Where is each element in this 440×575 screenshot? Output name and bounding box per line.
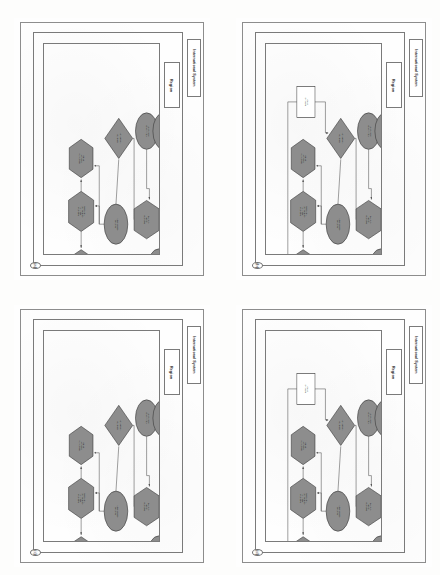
flow-node-ellipse: Great powerrestraintand localautonomy [147, 249, 159, 254]
svg-text:Regional: Regional [77, 493, 79, 503]
svg-text:External: External [117, 134, 119, 143]
panel-letter-a: (a) [30, 262, 41, 269]
flow-node-hexagon: Rise of newregionalpower [69, 250, 93, 254]
flow-node-hexagon: Balancingcoalitionforms [291, 139, 315, 177]
svg-text:change: change [370, 215, 372, 223]
flow-connector [317, 206, 326, 224]
international-system-boundary: International System Region Rise of newr… [33, 319, 183, 553]
flow-connector [338, 446, 341, 491]
region-text: Region [392, 78, 397, 92]
svg-text:intensifies: intensifies [83, 493, 85, 503]
svg-text:order: order [368, 504, 370, 510]
svg-text:commitment: commitment [338, 505, 340, 518]
flow-diagram-d: Rise of newregionalpowerRegionalsecurity… [266, 331, 381, 541]
flow-node-hexagon: Regionalsecuritycompetitionintensifies [69, 191, 94, 231]
flow-connector [376, 149, 381, 254]
svg-text:External: External [304, 384, 306, 393]
svg-text:Regional: Regional [299, 493, 301, 503]
international-system-label: International System [409, 39, 423, 97]
svg-text:Alliance: Alliance [336, 219, 338, 228]
svg-text:intervention: intervention [341, 133, 343, 145]
flow-node-ellipse: Alliancecommitment [326, 204, 350, 244]
page-frame: International System Region Rise of newr… [242, 309, 426, 563]
international-system-label: International System [187, 326, 201, 384]
svg-text:change: change [148, 502, 150, 510]
svg-text:change: change [148, 215, 150, 223]
figure-panel-a: International System Region Rise of newr… [14, 18, 210, 280]
panel-letter-c-text: (c) [33, 550, 38, 555]
international-system-text: International System [192, 336, 196, 373]
region-boundary: Region Rise of newregionalpowerRegionals… [43, 330, 160, 542]
svg-text:Regional: Regional [143, 215, 145, 225]
international-system-text: International System [414, 336, 418, 373]
svg-text:intervention: intervention [341, 420, 343, 432]
svg-text:Regional: Regional [299, 206, 301, 216]
svg-text:adaptation: adaptation [148, 413, 150, 424]
svg-text:Balancing: Balancing [78, 154, 80, 164]
svg-text:Balancing: Balancing [300, 441, 302, 451]
svg-text:intensifies: intensifies [305, 206, 307, 216]
svg-text:coalition: coalition [80, 441, 82, 449]
svg-text:security: security [79, 208, 81, 216]
panel-letter-c: (c) [30, 549, 41, 556]
svg-text:change: change [370, 502, 372, 510]
figure-page: International System Region Rise of newr… [0, 0, 440, 575]
svg-text:security: security [79, 495, 81, 503]
svg-text:competition: competition [81, 206, 83, 218]
flow-node-ellipse: Alliancecommitment [104, 204, 128, 244]
svg-text:Alliance: Alliance [114, 506, 116, 515]
region-text: Region [170, 365, 175, 379]
flow-node-hexagon: Regionalsecuritycompetitionintensifies [69, 478, 94, 518]
svg-text:security: security [301, 208, 303, 216]
svg-text:order: order [146, 504, 148, 510]
flow-canvas: Rise of newregionalpowerRegionalsecurity… [266, 44, 381, 254]
flow-connector [95, 206, 104, 224]
flow-connector [369, 149, 372, 199]
svg-text:Institutional: Institutional [146, 412, 148, 424]
region-boundary: Region Rise of newregionalpowerRegionals… [43, 43, 160, 255]
flow-connector [317, 493, 326, 511]
flow-node-diamond: Externalintervention [327, 405, 355, 445]
svg-text:Institutional: Institutional [368, 412, 370, 424]
flow-node-hexagon: Rise of newregionalpower [291, 250, 315, 254]
flow-canvas: Rise of newregionalpowerRegionalsecurity… [44, 331, 159, 541]
flow-connector [133, 425, 134, 506]
svg-text:coalition: coalition [80, 154, 82, 162]
svg-text:Regional: Regional [365, 215, 367, 225]
figure-panel-b: International System Region Rise of newr… [236, 18, 432, 280]
international-system-boundary: International System Region Rise of newr… [255, 319, 405, 553]
svg-text:Regional: Regional [77, 206, 79, 216]
svg-text:adaptation: adaptation [370, 413, 372, 424]
flow-connector [147, 436, 150, 486]
svg-text:coalition: coalition [302, 441, 304, 449]
flow-diagram-b: Rise of newregionalpowerRegionalsecurity… [266, 44, 381, 254]
flow-diagram-c: Rise of newregionalpowerRegionalsecurity… [44, 331, 159, 541]
region-label: Region [164, 349, 180, 395]
panel-letter-b: (b) [252, 262, 263, 269]
international-system-boundary: International System Region Rise of newr… [33, 32, 183, 266]
svg-text:commitment: commitment [116, 505, 118, 518]
flow-node-diamond: Externalintervention [327, 118, 355, 158]
flow-connector [288, 102, 297, 254]
panel-letter-a-text: (a) [33, 263, 38, 268]
international-system-text: International System [414, 49, 418, 86]
flow-connector [288, 389, 297, 541]
international-system-text: International System [192, 49, 196, 86]
flow-canvas: Rise of newregionalpowerRegionalsecurity… [266, 331, 381, 541]
region-boundary: Region Rise of newregionalpowerRegionals… [265, 43, 382, 255]
flow-connector [316, 166, 321, 224]
svg-text:competition: competition [81, 493, 83, 505]
flow-node-rectangle: Externalshock [297, 373, 315, 404]
flow-node-hexagon: Regionalsecuritycompetitionintensifies [291, 191, 316, 231]
svg-text:intensifies: intensifies [83, 206, 85, 216]
flow-node-hexagon: Regionalorderchange [134, 200, 159, 238]
svg-text:commitment: commitment [338, 218, 340, 231]
svg-text:Regional: Regional [143, 502, 145, 512]
flow-connector [133, 138, 134, 219]
flow-connector [316, 453, 321, 511]
svg-text:External: External [117, 421, 119, 430]
flow-connector [355, 425, 356, 506]
svg-text:competition: competition [303, 493, 305, 505]
international-system-label: International System [187, 39, 201, 97]
page-frame: International System Region Rise of newr… [242, 22, 426, 276]
